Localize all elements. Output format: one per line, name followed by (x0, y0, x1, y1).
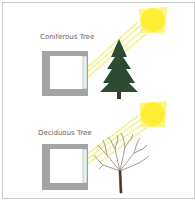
deciduous-panel (42, 101, 167, 193)
diagram-graphics (3, 3, 194, 198)
diagram-frame: Coniferous Tree Deciduous Tree (2, 2, 195, 199)
coniferous-panel (42, 7, 167, 99)
building-bottom (42, 144, 88, 190)
deciduous-tree-icon (94, 133, 149, 193)
building-top (42, 51, 88, 96)
coniferous-tree-icon (100, 39, 138, 99)
